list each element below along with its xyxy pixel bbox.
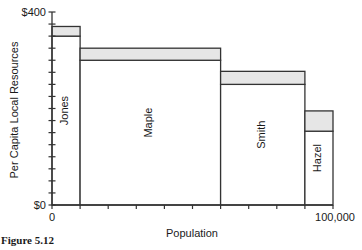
bar-increment-maple [80, 48, 221, 60]
bar-label: Maple [142, 108, 154, 138]
x-tick-label-left: 0 [49, 211, 55, 223]
figure-caption: Figure 5.12 [1, 234, 54, 246]
bar-label: Hazel [311, 144, 323, 172]
chart: JonesMapleSmithHazel$400$00100,000Popula… [0, 0, 362, 250]
bar-increment-smith [221, 71, 305, 84]
bar-label: Jones [58, 95, 70, 125]
bar-label: Smith [255, 121, 267, 149]
x-tick-label-right: 100,000 [315, 211, 355, 223]
x-axis-title: Population [166, 227, 218, 239]
bar-increment-jones [52, 26, 80, 36]
y-tick-label-top: $400 [22, 6, 46, 18]
y-tick-label-bottom: $0 [34, 199, 46, 211]
bar-increment-hazel [305, 111, 333, 131]
y-axis-title: Per Capita Local Resources [8, 41, 20, 178]
